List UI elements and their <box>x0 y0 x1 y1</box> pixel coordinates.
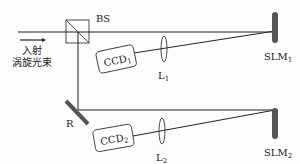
slm2 <box>272 108 278 139</box>
arrow-icon <box>42 38 46 42</box>
lens2-label: L2 <box>156 152 167 164</box>
slm1-label: SLM1 <box>264 51 292 64</box>
lens1-label: L1 <box>158 70 169 83</box>
input-label-1: 入射 <box>22 45 42 56</box>
input-label-2: 涡旋光束 <box>12 56 52 68</box>
bs-label: BS <box>96 13 110 24</box>
optical-diagram: 入射 涡旋光束 BS R CCD1 L1 CCD2 L2 SLM1 SLM2 <box>0 0 300 164</box>
slm1 <box>272 12 278 43</box>
slm2-label: SLM2 <box>264 147 292 160</box>
mirror-label: R <box>66 118 74 129</box>
